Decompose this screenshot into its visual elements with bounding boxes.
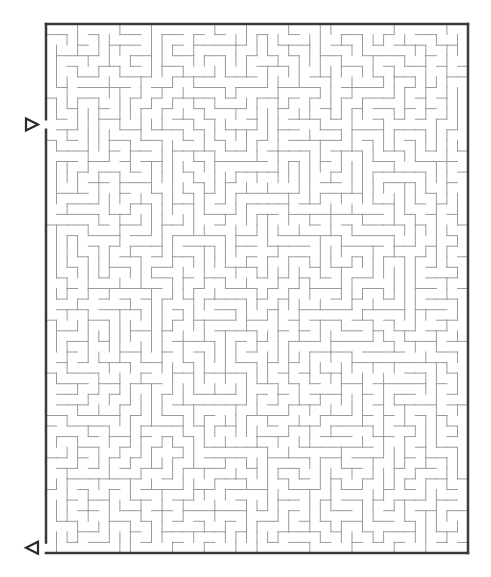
entrance-arrow-icon [26, 119, 38, 131]
maze-walls [46, 24, 468, 553]
maze-grid [0, 0, 491, 577]
exit-arrow-icon [26, 542, 38, 554]
